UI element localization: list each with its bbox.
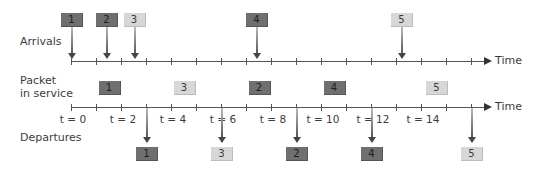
departure-arrow-icon (221, 108, 223, 138)
axis-tick (171, 58, 172, 65)
axis-tick (196, 104, 197, 111)
axis-tick (346, 104, 347, 111)
departures-label: Departures (20, 131, 82, 144)
service-time-label: Time (495, 100, 522, 113)
arrivals-time-axis (71, 61, 485, 62)
departure-packet: 4 (361, 147, 383, 161)
service-packet: 2 (249, 81, 271, 95)
tick-label: t = 4 (160, 113, 186, 125)
tick-label: t = 14 (407, 113, 440, 125)
axis-tick (271, 104, 272, 111)
axis-tick (421, 104, 422, 111)
service-packet: 3 (174, 81, 196, 95)
axis-tick (346, 58, 347, 65)
service-time-axis (71, 107, 485, 108)
axis-tick (421, 58, 422, 65)
axis-tick (96, 104, 97, 111)
tick-label: t = 12 (357, 113, 390, 125)
departure-packet: 1 (136, 147, 158, 161)
service-axis-arrowhead-icon (484, 103, 492, 111)
departure-packet: 2 (286, 147, 308, 161)
arrival-arrow-icon (256, 27, 258, 54)
axis-tick (246, 58, 247, 65)
axis-tick (71, 58, 72, 65)
departure-arrow-icon (371, 108, 373, 138)
arrival-packet: 4 (246, 13, 268, 27)
arrival-packet: 5 (391, 13, 413, 27)
packet-in-service-label-line2: in service (20, 87, 73, 100)
axis-tick (146, 58, 147, 65)
tick-label: t = 8 (260, 113, 286, 125)
axis-tick (471, 58, 472, 65)
axis-tick (396, 58, 397, 65)
axis-tick (396, 104, 397, 111)
axis-tick (221, 58, 222, 65)
tick-label: t = 0 (60, 113, 86, 125)
arrivals-time-label: Time (495, 54, 522, 67)
arrival-arrow-icon (71, 27, 73, 54)
tick-label: t = 10 (307, 113, 340, 125)
service-packet: 4 (324, 81, 346, 95)
packet-in-service-label-line1: Packet (20, 74, 56, 87)
tick-label: t = 2 (110, 113, 136, 125)
axis-tick (196, 58, 197, 65)
tick-label: t = 6 (210, 113, 236, 125)
axis-tick (271, 58, 272, 65)
arrival-packet: 2 (96, 13, 118, 27)
axis-tick (446, 104, 447, 111)
arrival-packet: 3 (124, 13, 146, 27)
axis-tick (96, 58, 97, 65)
axis-tick (446, 58, 447, 65)
arrival-arrow-icon (106, 27, 108, 54)
departure-arrow-icon (146, 108, 148, 138)
axis-tick (371, 58, 372, 65)
departure-packet: 5 (461, 147, 483, 161)
axis-tick (71, 104, 72, 111)
arrivals-axis-arrowhead-icon (484, 57, 492, 65)
arrivals-label: Arrivals (20, 35, 61, 48)
axis-tick (246, 104, 247, 111)
arrival-arrow-icon (134, 27, 136, 54)
axis-tick (121, 104, 122, 111)
axis-tick (321, 58, 322, 65)
axis-tick (171, 104, 172, 111)
arrival-arrow-icon (401, 27, 403, 54)
service-packet: 1 (99, 81, 121, 95)
arrival-packet: 1 (61, 13, 83, 27)
service-packet: 5 (426, 81, 448, 95)
axis-tick (296, 58, 297, 65)
axis-tick (321, 104, 322, 111)
departure-arrow-icon (296, 108, 298, 138)
departure-arrow-icon (471, 108, 473, 138)
departure-packet: 3 (211, 147, 233, 161)
axis-tick (121, 58, 122, 65)
